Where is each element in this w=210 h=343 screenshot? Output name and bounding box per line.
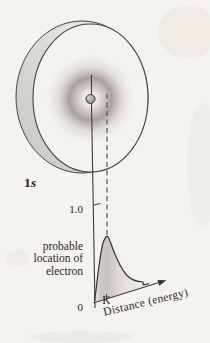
y-axis-max-tick: [94, 204, 101, 206]
y-axis-caption: probable location of electron: [6, 240, 83, 277]
orbital-label-number: 1: [24, 175, 31, 190]
y-axis-caption-line: probable: [6, 240, 83, 252]
x-axis-arrowhead: [158, 280, 167, 286]
y-axis-max-label: 1.0: [56, 203, 83, 215]
y-axis-caption-line: location of: [6, 252, 83, 264]
y-axis-zero-label: 0: [62, 301, 83, 313]
y-axis-caption-line: electron: [6, 265, 83, 277]
orbital-label-suffix: s: [31, 175, 37, 190]
nucleus: [86, 95, 95, 104]
figure-1s-orbital: 1s 1.0 probable location of electron 0 K…: [0, 0, 210, 343]
orbital-label: 1s: [24, 175, 37, 191]
